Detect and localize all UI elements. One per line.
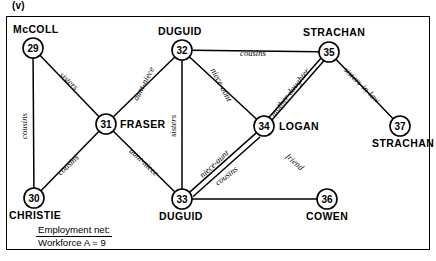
caption-line-1: Employment net: (36, 224, 112, 237)
edge-label-29-30-0: cousins (19, 112, 29, 138)
node-name-35: STRACHAN (303, 26, 365, 38)
node-34[interactable]: 34LOGAN (254, 116, 319, 136)
edge-label-29-31-1: sisters (58, 70, 81, 93)
edge-label-31-32-3: aunt-niece (130, 65, 156, 102)
node-number-33: 33 (176, 194, 188, 205)
node-name-32: DUGUID (158, 25, 202, 37)
node-name-33: DUGUID (159, 210, 203, 222)
edge-label-33-36-11: friend (284, 151, 306, 173)
node-number-36: 36 (321, 194, 333, 205)
edge-labels-layer: cousinssisterscousinsaunt-nieceaunt-niec… (19, 48, 382, 187)
node-name-30: CHRISTIE (9, 209, 61, 221)
node-31[interactable]: 31FRASER (96, 114, 166, 134)
figure-panel: (v) cousinssisterscousinsaunt-nieceaunt-… (0, 0, 436, 261)
node-number-34: 34 (258, 121, 270, 132)
edge-label-30-31-2: cousins (55, 152, 81, 177)
node-name-29: McCOLL (13, 23, 59, 35)
edge-label-32-33-5: sisters (168, 114, 178, 137)
nodes-layer: 29McCOLL32DUGUID35STRACHAN31FRASER34LOGA… (9, 23, 434, 222)
node-37[interactable]: 37STRACHAN (372, 116, 434, 149)
node-35[interactable]: 35STRACHAN (303, 26, 365, 62)
node-name-37: STRACHAN (372, 137, 434, 149)
node-36[interactable]: 36COWEN (306, 189, 348, 222)
node-number-32: 32 (176, 45, 188, 56)
node-number-29: 29 (27, 43, 39, 54)
node-name-31: FRASER (120, 118, 166, 130)
edge-label-32-34-6: niece-aunt (209, 66, 235, 103)
node-number-37: 37 (394, 121, 406, 132)
node-name-34: LOGAN (279, 120, 319, 132)
figure-caption: Employment net: Workforce A = 9 (36, 224, 112, 249)
node-number-35: 35 (323, 47, 335, 58)
node-name-36: COWEN (306, 210, 348, 222)
edge-29-30 (33, 58, 34, 188)
network-graph: cousinssisterscousinsaunt-nieceaunt-niec… (0, 0, 436, 261)
node-number-31: 31 (100, 119, 112, 130)
edge-label-32-35-7: cousins (240, 48, 266, 58)
edge-label-35-37-12: sisters-in-law (342, 65, 382, 105)
node-29[interactable]: 29McCOLL (13, 23, 59, 58)
node-32[interactable]: 32DUGUID (158, 25, 202, 60)
caption-line-2: Workforce A = 9 (36, 237, 112, 249)
edge-label-31-33-4: aunt-niece (127, 146, 160, 178)
node-30[interactable]: 30CHRISTIE (9, 188, 61, 221)
node-number-30: 30 (28, 193, 40, 204)
edge-label-34-35-10: mother-daughter (268, 66, 312, 118)
